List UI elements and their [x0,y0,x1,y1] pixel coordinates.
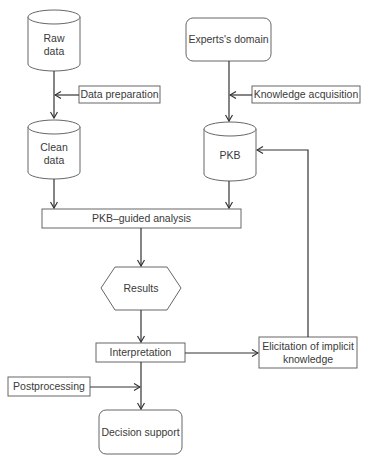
experts-domain-label: Experts's domain [186,18,271,61]
interpretation-label: Interpretation [96,343,185,362]
pkb-label: PKB [204,140,256,170]
elicitation-line2: knowledge [283,353,333,366]
data-preparation-label: Data preparation [79,86,160,103]
results-label: Results [101,267,181,310]
elicitation-line1: Elicitation of implicit [262,340,354,353]
raw-data-line1: Raw [43,32,64,45]
clean-data-label: Clean data [28,137,80,171]
raw-data-label: Raw data [28,28,80,62]
elicitation-label: Elicitation of implicit knowledge [259,337,357,368]
knowledge-acquisition-label: Knowledge acquisition [252,86,360,103]
raw-data-line2: data [44,45,64,58]
decision-support-label: Decision support [99,410,182,454]
clean-data-line1: Clean [40,141,67,154]
pkb-guided-analysis-label: PKB–guided analysis [42,209,241,228]
postprocessing-label: Postprocessing [8,377,90,396]
clean-data-line2: data [44,154,64,167]
edge-elicitation-to-pkb [257,150,308,337]
